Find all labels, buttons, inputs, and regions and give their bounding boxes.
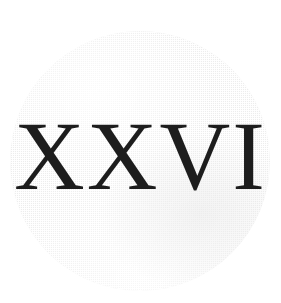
- halftone-disc: [10, 31, 270, 291]
- scanned-page: XXVI: [0, 0, 281, 303]
